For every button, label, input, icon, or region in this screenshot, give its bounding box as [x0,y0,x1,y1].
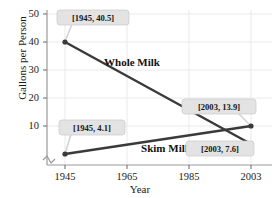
plot-area: 50 40 30 20 10 1945 1965 1985 2003 [0,0,280,198]
y-tick-label-20: 20 [29,92,40,103]
y-tick-label-10: 10 [29,120,40,131]
callout-skim-end[interactable]: [2003, 13.9] [182,99,256,114]
x-tick-label-1985: 1985 [179,171,200,182]
x-axis-title: Year [0,183,280,195]
line-chart: 50 40 30 20 10 1945 1965 1985 2003 [0,0,280,198]
data-point-marker [62,39,67,44]
callout-whole-start-text: [1945, 40.5] [72,13,114,23]
x-tick-label-1945: 1945 [55,171,76,182]
y-tick-label-50: 50 [29,8,40,19]
series-label-skim-milk: Skim Milk [141,142,192,154]
data-point-marker [248,123,253,128]
callout-skim-end-text: [2003, 13.9] [198,102,240,112]
axis-break-icon [43,156,55,163]
series-label-whole-milk: Whole Milk [104,56,161,68]
y-tick-label-30: 30 [29,64,40,75]
x-tick-label-1965: 1965 [117,171,138,182]
callout-whole-end[interactable]: [2003, 7.6] [186,141,254,156]
y-axis-title: Gallons per Person [16,8,28,108]
data-point-marker [62,151,67,156]
x-tick-marks [65,165,251,169]
y-tick-label-40: 40 [29,36,40,47]
x-tick-label-2003: 2003 [241,171,262,182]
callout-whole-end-text: [2003, 7.6] [201,144,239,154]
callout-skim-start-text: [1945, 4.1] [73,123,111,133]
callout-whole-start[interactable]: [1945, 40.5] [57,10,129,25]
callout-skim-start[interactable]: [1945, 4.1] [59,120,125,135]
